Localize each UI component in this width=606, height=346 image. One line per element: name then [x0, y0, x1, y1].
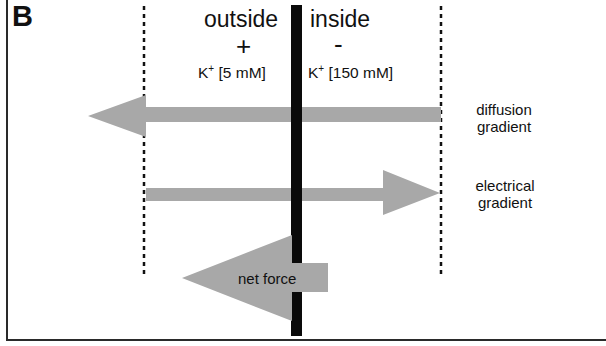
inside-charge-sign: -	[334, 31, 343, 57]
net-force-label: net force	[238, 271, 296, 286]
outside-title: outside	[204, 8, 278, 31]
inside-ion: K	[308, 64, 318, 81]
inside-concentration: K+ [150 mM]	[308, 64, 393, 81]
electrical-label-line1: electrical	[460, 177, 550, 194]
inside-concentration-value: [150 mM]	[329, 64, 394, 81]
electrical-gradient-label: electrical gradient	[460, 177, 550, 211]
outside-ion-charge: +	[208, 63, 214, 74]
diffusion-label-line2: gradient	[462, 118, 546, 135]
diffusion-gradient-arrow	[88, 95, 441, 137]
outside-charge-sign: +	[236, 33, 251, 59]
outside-concentration: K+ [5 mM]	[198, 64, 266, 81]
electrical-label-line2: gradient	[460, 194, 550, 211]
inside-ion-charge: +	[318, 63, 324, 74]
outside-ion: K	[198, 64, 208, 81]
outside-concentration-value: [5 mM]	[219, 64, 266, 81]
panel-label: B	[12, 2, 33, 31]
diffusion-gradient-label: diffusion gradient	[462, 101, 546, 135]
inside-title: inside	[310, 8, 370, 31]
diffusion-label-line1: diffusion	[462, 101, 546, 118]
